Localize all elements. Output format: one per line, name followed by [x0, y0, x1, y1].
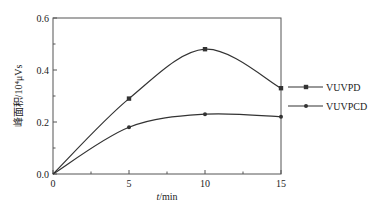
square-marker — [203, 47, 207, 51]
legend-marker-icon — [304, 85, 308, 89]
legend: VUVPDVUVPCD — [288, 82, 367, 112]
y-tick-label: 0.2 — [37, 117, 50, 128]
square-marker — [127, 96, 131, 100]
legend-marker-icon — [304, 104, 308, 108]
y-tick-label: 0.0 — [37, 169, 50, 180]
series-vuvpcd — [53, 112, 283, 174]
x-tick-label: 0 — [51, 178, 56, 189]
circle-marker — [127, 125, 131, 129]
x-tick-label: 5 — [127, 178, 132, 189]
series-line — [53, 114, 281, 174]
line-chart: 0510150.00.20.40.6 VUVPDVUVPCD 峰面积/10⁴μV… — [0, 0, 380, 216]
legend-label: VUVPCD — [326, 101, 367, 112]
y-axis-title: 峰面积/10⁴μVs — [13, 65, 24, 128]
circle-marker — [279, 115, 283, 119]
x-tick-label: 10 — [200, 178, 210, 189]
y-tick-label: 0.4 — [37, 65, 50, 76]
y-tick-label: 0.6 — [37, 13, 50, 24]
series-vuvpd — [53, 47, 283, 174]
x-axis-title: t/min — [156, 191, 177, 202]
legend-label: VUVPD — [326, 82, 360, 93]
legend-item-vuvpd: VUVPD — [288, 82, 360, 93]
x-tick-label: 15 — [276, 178, 286, 189]
legend-item-vuvpcd: VUVPCD — [288, 101, 367, 112]
circle-marker — [203, 112, 207, 116]
series-group — [53, 47, 283, 174]
square-marker — [279, 86, 283, 90]
series-line — [53, 49, 281, 174]
axis-ticks: 0510150.00.20.40.6 — [37, 13, 287, 190]
